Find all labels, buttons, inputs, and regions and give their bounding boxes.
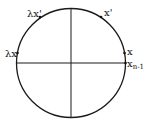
label-x-prime: x' <box>104 7 112 18</box>
label-x: x <box>127 46 133 57</box>
label-lambda-x-prime: λx' <box>27 8 42 19</box>
label-lambda-x: λx <box>5 48 17 59</box>
label-x-n-minus-1: xn-1 <box>127 58 144 71</box>
point-x-prime <box>100 16 103 19</box>
point-x <box>123 52 126 55</box>
label-x-n-minus-1-sub: n-1 <box>133 63 144 71</box>
circle-diagram: λx λx' x' x xn-1 <box>0 0 148 132</box>
